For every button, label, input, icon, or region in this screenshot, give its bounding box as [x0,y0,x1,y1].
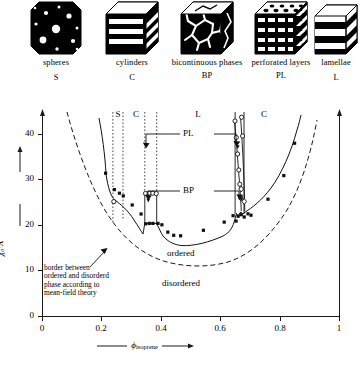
x-title-right-arrow [160,342,196,350]
y-tick-label-0: 0 [8,310,34,320]
pl-arrow-left [143,143,150,149]
morphology-code-perforated: PL [246,70,316,80]
x-tick-label-06: 0.6 [205,323,235,333]
morphology-spheres: spheres S [20,0,92,82]
morphology-label-spheres: spheres [20,58,92,68]
cylinder-cube-icon [104,0,160,56]
inline-label-bp: BP [183,185,194,195]
morphology-code-bicontinuous: BP [170,70,244,80]
phase-diagram-figure: spheres S cylinders [0,0,360,368]
top-phase-label-l: L [188,109,208,119]
morphology-strip: spheres S cylinders [0,0,360,104]
x-title-left-rule [95,342,129,350]
inline-label-pl: PL [183,128,194,138]
y-tick-label-10: 10 [8,264,34,274]
callout-arrow-head [101,248,108,254]
morphology-code-spheres: S [20,72,92,82]
morphology-lamellae: lamellae L [312,0,360,82]
x-tick-label-02: 0.2 [86,323,116,333]
morphology-code-lamellae: L [312,72,360,82]
morphology-label-perforated: perforated layers [246,58,316,68]
filled-square-markers [104,142,296,238]
y-tick-label-40: 40 [8,128,34,138]
x-tick-label-04: 0.4 [146,323,176,333]
x-tick-label-0: 0 [27,323,57,333]
plot-frame: 0 10 20 30 40 0 0.2 0.4 0.6 0.8 1 [42,112,340,317]
phase-diagram-plot: χₒ·X 0 10 20 [0,104,360,368]
experimental-boundary-right [244,115,301,213]
sphere-cube-icon [29,0,83,56]
morphology-bicontinuous: bicontinuous phases BP [170,0,244,80]
x-tick-label-08: 0.8 [265,323,295,333]
lamellae-cube-icon [313,0,359,56]
top-phase-label-c1: C [126,109,146,119]
morphology-cylinders: cylinders C [96,0,168,82]
experimental-boundary-left [99,118,145,234]
morphology-perforated: perforated layers PL [246,0,316,80]
x-axis-subscript: isoprene [136,343,158,350]
morphology-label-bicontinuous: bicontinuous phases [170,58,244,68]
x-axis-title: ϕisoprene [95,340,196,350]
top-phase-label-s: S [108,109,128,119]
y-tick-label-20: 20 [8,219,34,229]
mean-field-callout: border between ordered and disorderd pha… [44,264,166,297]
x-tick-label-1: 1 [324,323,354,333]
morphology-label-lamellae: lamellae [312,58,360,68]
y-tick-label-30: 30 [8,173,34,183]
region-label-disordered: disordered [162,278,200,288]
top-phase-label-c2: C [254,109,274,119]
morphology-label-cylinders: cylinders [96,58,168,68]
filled-triangle-markers [147,145,244,202]
region-label-ordered: ordered [167,248,194,258]
bp-arrow-left [145,195,152,201]
morphology-code-cylinders: C [96,72,168,82]
callout-line-4: mean-field theory [44,289,166,297]
bicontinuous-cube-icon [179,0,235,56]
perforated-cube-icon [253,0,309,56]
open-circle-markers [112,115,245,204]
